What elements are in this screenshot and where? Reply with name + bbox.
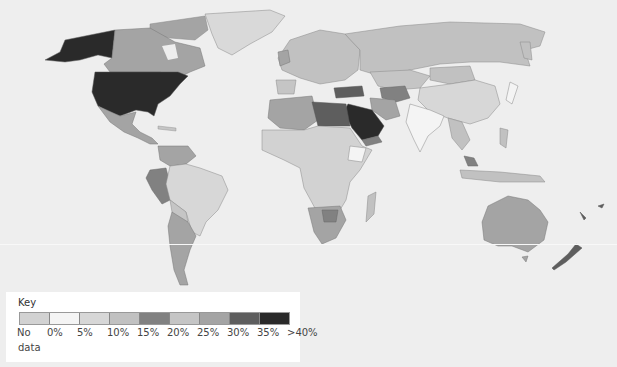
key-no-data-label: data [18,342,41,353]
key-label: 5% [77,327,107,338]
region-indonesia [460,170,545,182]
key-label: 35% [257,327,287,338]
region-madagascar [366,192,376,222]
key-swatch-30 [230,313,260,324]
map-key: Key No 0% 5% 10% 15% 20% 25% 30% 35% >40… [6,292,300,362]
region-philippines [500,128,508,148]
key-labels: No 0% 5% 10% 15% 20% 25% 30% 35% >40% [17,327,317,338]
key-swatch-15 [140,313,170,324]
key-swatch-0 [50,313,80,324]
key-label: 20% [167,327,197,338]
key-title: Key [18,297,36,308]
scan-line [0,244,617,245]
key-swatch-5 [80,313,110,324]
key-swatch-bar [19,312,290,325]
region-alaska [45,30,115,62]
region-malaysia [464,156,478,166]
key-label: 0% [47,327,77,338]
key-swatch-25 [200,313,230,324]
region-greenland [205,10,285,55]
region-iberia [276,80,296,94]
key-label: 15% [137,327,167,338]
key-label: >40% [287,327,317,338]
region-pacific-islands [580,204,604,220]
region-usa [92,72,188,116]
key-label: No [17,327,47,338]
region-central-africa [262,126,372,210]
key-label: 30% [227,327,257,338]
region-japan [506,82,518,104]
key-swatch-no-data [20,313,50,324]
key-swatch-40 [260,313,289,324]
region-caribbean [158,126,176,131]
region-libya-egypt [312,102,350,126]
region-venezuela-colombia [158,146,196,166]
world-map: Key No 0% 5% 10% 15% 20% 25% 30% 35% >40… [0,0,617,367]
region-europe [278,30,360,84]
key-label: 25% [197,327,227,338]
region-botswana [322,210,338,222]
key-label: 10% [107,327,137,338]
key-swatch-10 [110,313,140,324]
region-tasmania [522,256,528,262]
region-turkey [334,86,364,98]
region-new-zealand [552,244,582,270]
key-swatch-20 [170,313,200,324]
region-northwest-africa [268,96,318,130]
